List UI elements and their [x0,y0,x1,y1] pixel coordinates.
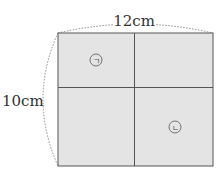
height-label: 10cm [2,92,44,110]
region-a-label: ㄱ [93,57,100,66]
region-b-label: ㄴ [172,124,179,133]
height-brace [43,33,58,166]
rectangle [58,33,213,166]
width-label: 12cm [113,12,155,30]
rectangle-diagram: 12cm 10cm ㄱ ㄴ [0,0,224,179]
